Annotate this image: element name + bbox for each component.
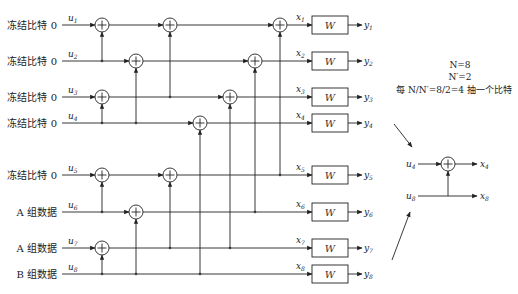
u-label-1: u1 — [68, 13, 78, 24]
y-label-1: y1 — [363, 20, 373, 31]
note-rule: 每 N/N′=8/2=4 抽一个比特 — [396, 84, 512, 95]
pointer-arrow-top — [394, 124, 412, 147]
channel-label: W — [325, 20, 336, 31]
y-label-4: y4 — [363, 118, 373, 129]
sub-u8-label: u8 — [406, 191, 416, 202]
x-label-3: x3 — [296, 84, 305, 95]
polar-code-diagram: 冻结比特 0u1x1Wy1冻结比特 0u2x2Wy2冻结比特 0u3x3Wy3冻… — [0, 0, 518, 294]
channel-label: W — [325, 207, 336, 218]
channel-label: W — [325, 243, 336, 254]
y-label-6: y6 — [363, 207, 373, 218]
input-label-2: 冻结比特 0 — [7, 55, 57, 67]
input-label-3: 冻结比特 0 — [7, 91, 57, 103]
sub-x4-label: x4 — [480, 159, 489, 170]
input-label-8: B 组数据 — [16, 268, 57, 280]
x-label-5: x5 — [296, 162, 305, 173]
x-label-2: x2 — [296, 48, 305, 59]
input-label-6: A 组数据 — [16, 206, 57, 218]
u-label-6: u6 — [68, 200, 78, 211]
u-label-8: u8 — [68, 262, 78, 273]
note-n-prime: N′=2 — [448, 72, 471, 82]
y-label-7: y7 — [363, 243, 373, 254]
encoder-graph: 冻结比特 0u1x1Wy1冻结比特 0u2x2Wy2冻结比特 0u3x3Wy3冻… — [0, 0, 518, 294]
channel-label: W — [325, 269, 336, 280]
y-label-8: y8 — [363, 269, 373, 280]
sub-x8-label: x8 — [480, 191, 489, 202]
pointer-arrow-bottom — [392, 212, 410, 260]
sub-u4-label: u4 — [406, 159, 416, 170]
u-label-5: u5 — [68, 163, 78, 174]
input-label-5: 冻结比特 0 — [7, 169, 57, 181]
u-label-2: u2 — [68, 49, 78, 60]
input-label-1: 冻结比特 0 — [7, 19, 57, 31]
x-label-7: x7 — [296, 235, 305, 246]
u-label-7: u7 — [68, 236, 78, 247]
input-label-4: 冻结比特 0 — [7, 117, 57, 129]
note-n: N=8 — [449, 60, 470, 70]
y-label-5: y5 — [363, 170, 373, 181]
channel-label: W — [325, 118, 336, 129]
u-label-4: u4 — [68, 111, 78, 122]
channel-label: W — [325, 170, 336, 181]
x-label-4: x4 — [296, 110, 305, 121]
x-label-1: x1 — [296, 12, 305, 23]
input-label-7: A 组数据 — [16, 242, 57, 254]
channel-label: W — [325, 56, 336, 67]
x-label-8: x8 — [296, 261, 305, 272]
y-label-2: y2 — [363, 56, 373, 67]
u-label-3: u3 — [68, 85, 78, 96]
y-label-3: y3 — [363, 92, 373, 103]
channel-label: W — [325, 92, 336, 103]
x-label-6: x6 — [296, 199, 305, 210]
